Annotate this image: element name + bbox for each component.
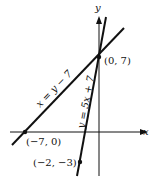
point-label-0-7: (0, 7) [104,55,131,66]
x-axis-label: x [143,126,149,137]
equation-label-2: y = 5x + 7 [75,74,96,130]
point-label-neg7-0: (−7, 0) [26,136,61,147]
point-neg2-neg3 [78,160,82,164]
point-0-7 [97,55,101,59]
point-neg7-0 [23,130,27,134]
point-label-neg2-neg3: (−2, −3) [33,157,77,168]
coordinate-diagram: x y x = y − 7 y = 5x + 7 (0, 7) (−7, 0) … [0,0,154,183]
line-x-equals-y-minus-7 [12,28,124,145]
y-axis-arrow-icon [96,16,102,24]
y-axis-label: y [94,2,101,13]
equation-label-1: x = y − 7 [34,67,75,109]
